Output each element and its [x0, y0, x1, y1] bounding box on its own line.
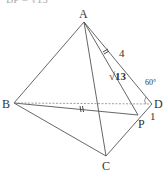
length-label-ad: 4 [119, 47, 125, 59]
point-label-p: P [138, 117, 145, 131]
vertex-label-d: D [154, 97, 163, 111]
length-label-ap: √13 [109, 70, 127, 82]
edge-ab [14, 22, 84, 103]
edge-ac [84, 22, 106, 156]
tetrahedron-diagram: A B C D P 4 √13 60° 1 [0, 0, 168, 175]
angle-arc-d [145, 97, 147, 104]
segment-ap [84, 22, 138, 115]
edge-cd [106, 104, 152, 156]
equal-tick-ap [103, 49, 109, 54]
angle-label: 60° [145, 78, 156, 87]
vertex-label-a: A [79, 7, 88, 21]
vertex-label-c: C [102, 159, 110, 173]
edge-ad [84, 22, 152, 104]
vertex-label-b: B [2, 97, 10, 111]
length-label-dp: 1 [150, 110, 156, 122]
equal-tick-bp [80, 106, 84, 112]
